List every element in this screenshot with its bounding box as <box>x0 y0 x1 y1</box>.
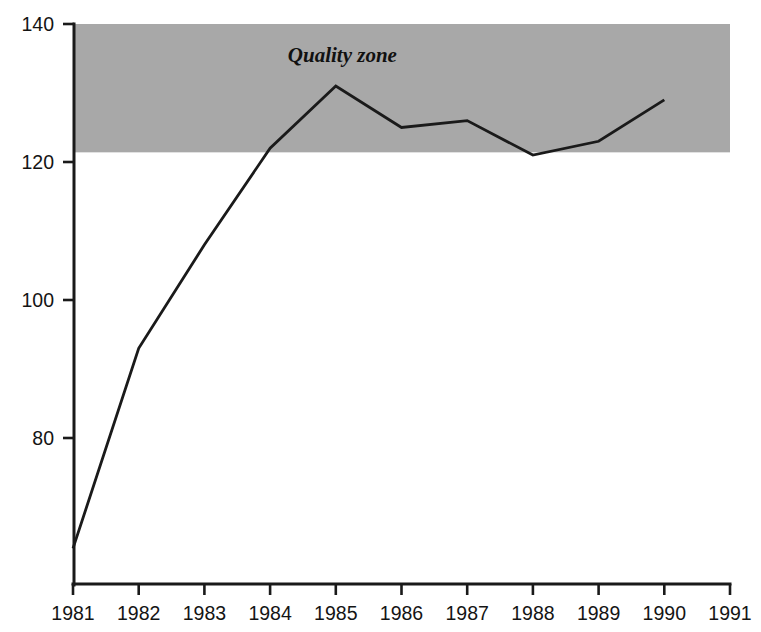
x-tick-label: 1985 <box>314 602 358 624</box>
x-tick-label: 1981 <box>51 602 94 624</box>
x-tick-label: 1989 <box>577 602 620 624</box>
x-tick-label: 1987 <box>446 602 489 624</box>
y-tick-label: 100 <box>21 289 54 311</box>
chart-container: Quality zone 80100120140 198119821983198… <box>0 0 761 632</box>
quality-zone-band <box>73 24 730 152</box>
x-tick-label: 1991 <box>708 602 751 624</box>
y-tick-label: 80 <box>32 427 54 449</box>
line-chart: Quality zone 80100120140 198119821983198… <box>0 0 761 632</box>
x-tick-label: 1988 <box>511 602 554 624</box>
x-axis-ticks: 1981198219831984198519861987198819891990… <box>51 584 751 624</box>
y-axis: 80100120140 <box>21 13 74 585</box>
data-series-line <box>73 86 664 548</box>
y-tick-label: 140 <box>21 13 54 35</box>
x-tick-label: 1982 <box>117 602 160 624</box>
y-axis-ticks: 80100120140 <box>21 13 74 449</box>
x-axis: 1981198219831984198519861987198819891990… <box>51 584 751 624</box>
x-tick-label: 1983 <box>183 602 226 624</box>
y-tick-label: 120 <box>21 151 54 173</box>
quality-zone-label: Quality zone <box>288 43 397 67</box>
x-tick-label: 1986 <box>380 602 423 624</box>
x-tick-label: 1990 <box>643 602 687 624</box>
x-tick-label: 1984 <box>248 602 292 624</box>
quality-zone-band-group <box>73 24 730 152</box>
